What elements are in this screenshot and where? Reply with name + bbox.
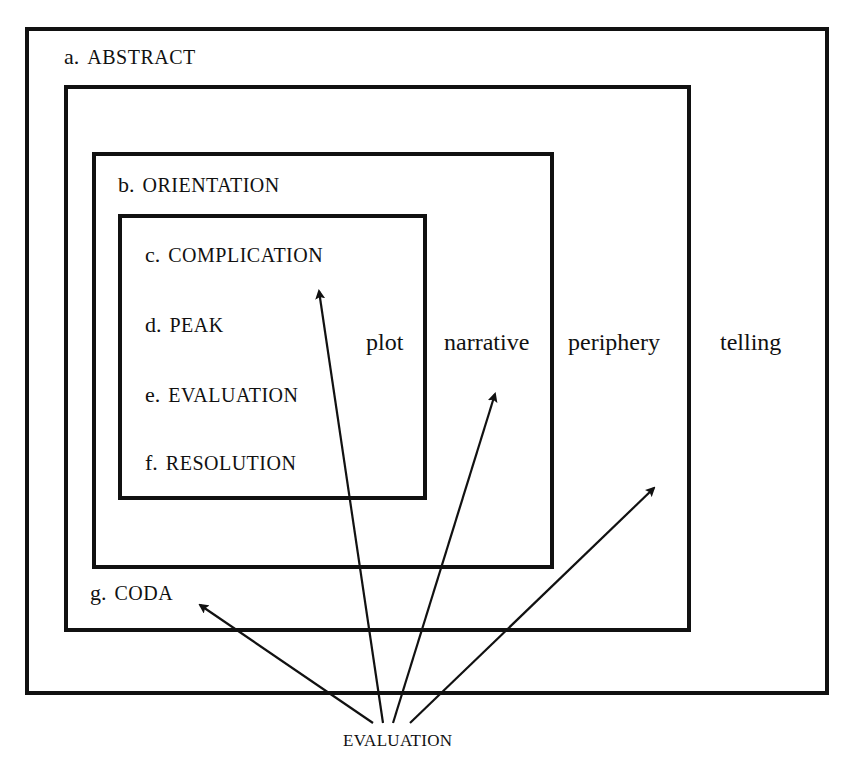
evaluation-source-label: EVALUATION bbox=[343, 732, 452, 749]
arrow-to-coda bbox=[200, 605, 373, 723]
arrow-to-narrative bbox=[393, 394, 495, 723]
evaluation-arrows bbox=[0, 0, 855, 774]
arrow-to-periphery bbox=[410, 488, 654, 723]
arrow-to-plot bbox=[319, 291, 383, 723]
